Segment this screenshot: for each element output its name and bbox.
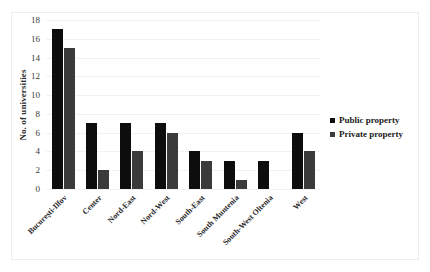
y-axis-title: No. of universities bbox=[16, 20, 30, 190]
bar-group bbox=[149, 20, 183, 189]
x-axis-label-cell: South-West Oltenia bbox=[252, 191, 286, 257]
bar-group bbox=[115, 20, 149, 189]
y-axis-tick-label: 14 bbox=[31, 53, 40, 62]
y-axis-tick-label: 2 bbox=[36, 166, 41, 175]
y-axis-tick-label: 16 bbox=[31, 34, 40, 43]
bar-group bbox=[80, 20, 114, 189]
gridline bbox=[46, 189, 321, 190]
bar[interactable] bbox=[189, 151, 200, 189]
bar[interactable] bbox=[236, 180, 247, 189]
bar[interactable] bbox=[258, 161, 269, 189]
bar-chart-figure: No. of universities 181614121086420 Bucu… bbox=[0, 0, 430, 272]
bar[interactable] bbox=[304, 151, 315, 189]
bar[interactable] bbox=[292, 133, 303, 189]
bar[interactable] bbox=[224, 161, 235, 189]
bar-group bbox=[184, 20, 218, 189]
legend-swatch-icon bbox=[330, 118, 335, 123]
y-axis-tick-label: 0 bbox=[36, 185, 41, 194]
y-axis-tick-label: 12 bbox=[31, 72, 40, 81]
bar-group bbox=[46, 20, 80, 189]
y-axis-tick-label: 6 bbox=[36, 128, 41, 137]
bar-group bbox=[287, 20, 321, 189]
x-axis-label-cell: București-Ilfov bbox=[46, 191, 80, 257]
bar[interactable] bbox=[120, 123, 131, 189]
bar[interactable] bbox=[64, 48, 75, 189]
bar-group bbox=[252, 20, 286, 189]
plot-area: 181614121086420 bbox=[46, 20, 321, 190]
x-axis-label: West bbox=[292, 194, 310, 212]
bar[interactable] bbox=[86, 123, 97, 189]
bar[interactable] bbox=[98, 170, 109, 189]
legend-item-label: Private property bbox=[339, 130, 403, 139]
legend-swatch-icon bbox=[330, 132, 335, 137]
x-axis-labels: București-IlfovCenterNord-EastNord-WestS… bbox=[46, 191, 321, 257]
bar-group bbox=[218, 20, 252, 189]
legend-item-label: Public property bbox=[339, 116, 400, 125]
y-axis-tick-label: 4 bbox=[36, 147, 41, 156]
x-axis-label: Center bbox=[81, 194, 103, 216]
bars-layer bbox=[46, 20, 321, 189]
plot-wrap: 181614121086420 bbox=[46, 20, 321, 190]
bar[interactable] bbox=[155, 123, 166, 189]
bar[interactable] bbox=[201, 161, 212, 189]
bar[interactable] bbox=[167, 133, 178, 189]
chart-legend: Public propertyPrivate property bbox=[330, 116, 422, 144]
y-axis-tick-label: 18 bbox=[31, 16, 40, 25]
y-axis-tick-label: 10 bbox=[31, 91, 40, 100]
bar[interactable] bbox=[52, 29, 63, 189]
bar[interactable] bbox=[132, 151, 143, 189]
x-axis-label-cell: Center bbox=[80, 191, 114, 257]
y-axis-title-label: No. of universities bbox=[18, 69, 28, 140]
legend-item[interactable]: Private property bbox=[330, 130, 422, 139]
legend-item[interactable]: Public property bbox=[330, 116, 422, 125]
y-axis-tick-label: 8 bbox=[36, 109, 41, 118]
x-axis-label-cell: West bbox=[287, 191, 321, 257]
